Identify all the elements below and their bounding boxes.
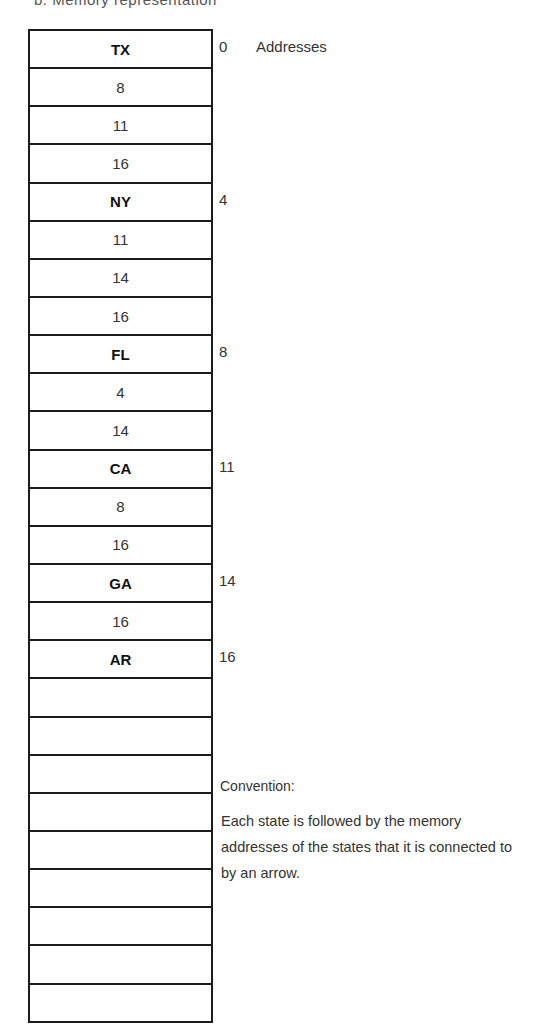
empty-cell	[30, 718, 211, 756]
empty-cell	[30, 870, 211, 908]
pointer-cell: 8	[30, 489, 211, 527]
empty-cell	[30, 756, 211, 794]
convention-text: Each state is followed by the memory add…	[221, 808, 531, 886]
pointer-cell: 8	[30, 69, 211, 107]
pointer-cell: 14	[30, 260, 211, 298]
address-label: 16	[219, 648, 236, 665]
address-label: 14	[219, 572, 236, 589]
empty-cell	[30, 679, 211, 717]
pointer-cell: 16	[30, 527, 211, 565]
memory-column: TX81116NY111416FL414CA816GA16AR	[28, 29, 213, 1023]
state-cell: FL	[30, 336, 211, 374]
pointer-cell: 11	[30, 222, 211, 260]
pointer-cell: 14	[30, 412, 211, 450]
pointer-cell: 16	[30, 298, 211, 336]
pointer-cell: 16	[30, 603, 211, 641]
state-cell: GA	[30, 565, 211, 603]
pointer-cell: 16	[30, 145, 211, 183]
address-label: 0	[219, 38, 227, 55]
empty-cell	[30, 832, 211, 870]
pointer-cell: 11	[30, 107, 211, 145]
state-cell: CA	[30, 451, 211, 489]
convention-title: Convention:	[220, 778, 295, 794]
empty-cell	[30, 908, 211, 946]
state-cell: NY	[30, 184, 211, 222]
addresses-header: Addresses	[256, 38, 327, 55]
empty-cell	[30, 985, 211, 1023]
address-label: 4	[219, 191, 227, 208]
state-cell: TX	[30, 31, 211, 69]
address-label: 11	[219, 458, 235, 475]
figure-caption: b. Memory representation	[34, 0, 217, 8]
empty-cell	[30, 946, 211, 984]
address-label: 8	[219, 343, 227, 360]
empty-cell	[30, 794, 211, 832]
state-cell: AR	[30, 641, 211, 679]
pointer-cell: 4	[30, 374, 211, 412]
